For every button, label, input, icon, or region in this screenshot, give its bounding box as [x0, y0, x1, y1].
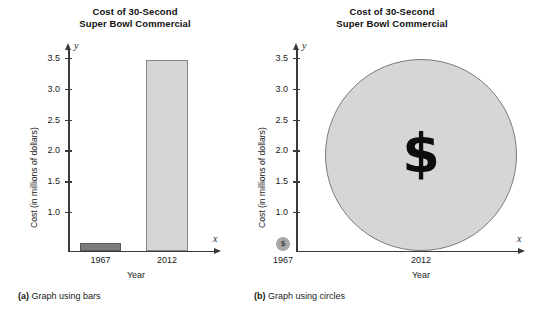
y-tick-b-3-5 — [293, 58, 300, 59]
chart-title-b: Cost of 30-Second Super Bowl Commercial — [292, 6, 492, 29]
y-tick-a-3-0 — [65, 89, 72, 90]
x-axis-arrow-b — [518, 248, 525, 254]
x-category-label-a-2012: 2012 — [146, 255, 188, 265]
x-axis-arrow-a — [214, 248, 221, 254]
y-tick-label-a-2-5: 2.5 — [34, 115, 60, 125]
x-axis-title-b: Year — [381, 270, 461, 280]
y-tick-b-1-0 — [293, 212, 300, 213]
caption-a: (a) Graph using bars — [18, 291, 101, 301]
dollar-sign-large-icon: $ — [402, 127, 440, 181]
y-tick-label-b-3-5: 3.5 — [262, 53, 288, 63]
panel-graph-using-circles: Cost of 30-Second Super Bowl Commercial … — [262, 0, 540, 313]
x-category-label-b-1967: 1967 — [263, 255, 303, 265]
y-tick-a-3-5 — [65, 58, 72, 59]
chart-title-b-line1: Cost of 30-Second — [292, 6, 492, 18]
chart-title-a-line2: Super Bowl Commercial — [40, 18, 230, 30]
x-category-label-b-2012: 2012 — [401, 255, 441, 265]
caption-b: (b) Graph using circles — [254, 291, 345, 301]
bar-1967-a — [80, 243, 121, 251]
dollar-sign-small-icon: $ — [280, 240, 285, 248]
chart-title-a: Cost of 30-Second Super Bowl Commercial — [40, 6, 230, 29]
x-axis-line-b — [296, 251, 518, 253]
y-tick-label-b-3-0: 3.0 — [262, 84, 288, 94]
y-axis-arrow-b — [293, 43, 299, 50]
y-tick-a-1-5 — [65, 181, 72, 182]
bubble-1967-b: $ — [276, 237, 290, 251]
y-axis-variable-b: y — [302, 40, 306, 51]
y-axis-variable-a: y — [74, 40, 78, 51]
y-axis-title-b: Cost (in millions of dollars) — [257, 127, 267, 228]
y-tick-a-2-0 — [65, 150, 72, 151]
panel-graph-using-bars: Cost of 30-Second Super Bowl Commercial … — [0, 0, 262, 313]
y-tick-b-2-0 — [293, 150, 300, 151]
y-tick-a-1-0 — [65, 212, 72, 213]
bar-2012-a — [146, 60, 188, 251]
y-tick-label-b-2-5: 2.5 — [262, 115, 288, 125]
y-tick-b-1-5 — [293, 181, 300, 182]
y-tick-a-2-5 — [65, 120, 72, 121]
figure-container: Cost of 30-Second Super Bowl Commercial … — [0, 0, 540, 313]
y-tick-label-a-3-0: 3.0 — [34, 84, 60, 94]
caption-a-marker: (a) — [18, 291, 29, 301]
x-axis-variable-b: x — [517, 233, 521, 244]
x-category-label-a-1967: 1967 — [80, 255, 121, 265]
y-tick-b-2-5 — [293, 120, 300, 121]
x-axis-title-a: Year — [96, 270, 176, 280]
y-axis-arrow-a — [65, 43, 71, 50]
caption-b-text: Graph using circles — [266, 291, 346, 301]
x-axis-variable-a: x — [213, 233, 217, 244]
bubble-2012-b: $ — [325, 59, 517, 251]
chart-title-b-line2: Super Bowl Commercial — [292, 18, 492, 30]
caption-b-marker: (b) — [254, 291, 266, 301]
y-tick-b-3-0 — [293, 89, 300, 90]
y-tick-label-a-3-5: 3.5 — [34, 53, 60, 63]
y-axis-title-a: Cost (in millions of dollars) — [29, 127, 39, 228]
caption-a-text: Graph using bars — [29, 291, 101, 301]
chart-title-a-line1: Cost of 30-Second — [40, 6, 230, 18]
